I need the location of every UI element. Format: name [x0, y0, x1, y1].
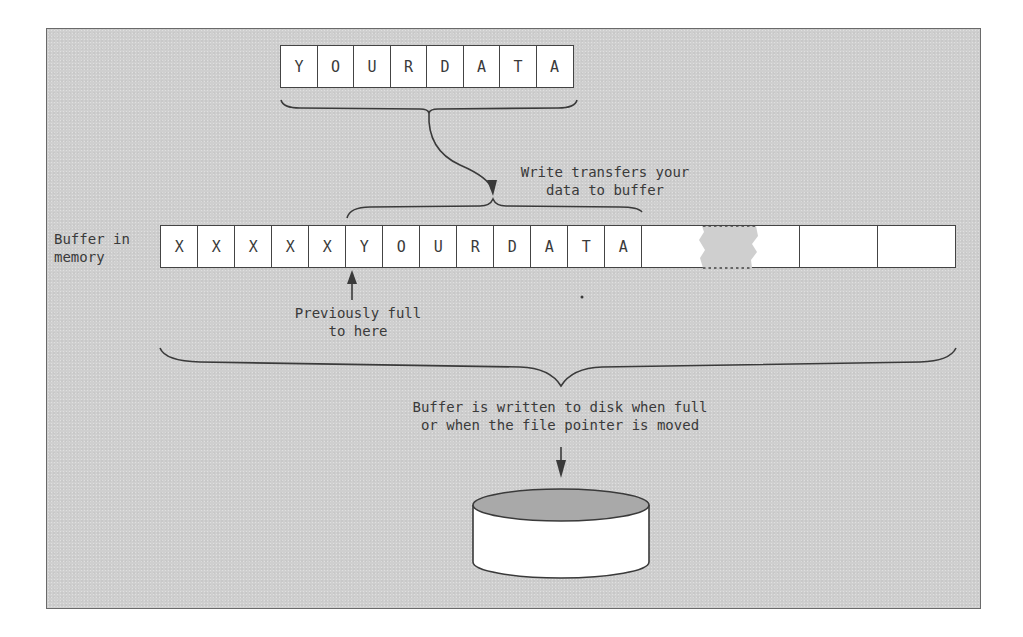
transfer-arrow-icon — [487, 180, 497, 196]
flush-arrow-icon — [556, 460, 566, 478]
previously-full-arrow-icon — [347, 270, 357, 284]
source-brace — [281, 100, 577, 113]
disk-icon — [473, 489, 649, 578]
transfer-connector — [429, 113, 492, 190]
connectors-layer — [0, 0, 1023, 637]
buffer-full-brace — [160, 348, 956, 386]
buffer-target-brace — [347, 199, 642, 218]
